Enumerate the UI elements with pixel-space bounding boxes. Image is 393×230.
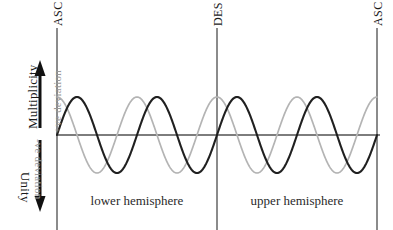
node-label-asc-right: ASC bbox=[372, 1, 384, 26]
axis-label-unity: Unity bbox=[19, 172, 32, 203]
axis-label-positive-deviation: +ve deviation bbox=[52, 70, 63, 133]
axis-label-multiplicity: Multiplicity bbox=[26, 64, 39, 129]
node-label-asc-left: ASC bbox=[52, 1, 64, 26]
node-label-des: DES bbox=[212, 2, 224, 26]
region-label-upper-hemisphere: upper hemisphere bbox=[217, 194, 377, 207]
region-label-lower-hemisphere: lower hemisphere bbox=[57, 194, 217, 207]
sine-wave-hemisphere-diagram: Multiplicity Unity +ve deviation -ve dev… bbox=[0, 0, 393, 230]
axis-label-negative-deviation: -ve deviation bbox=[33, 139, 44, 199]
